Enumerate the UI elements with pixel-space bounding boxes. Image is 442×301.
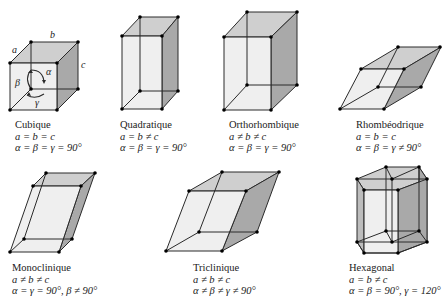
caption-monoclinic: Monoclinique a ≠ b ≠ c α = γ = 90°, β ≠ … bbox=[12, 262, 97, 297]
angles-relation: α = β = γ = 90° bbox=[15, 142, 82, 154]
system-name: Cubique bbox=[15, 119, 82, 131]
system-name: Orthorhombique bbox=[229, 119, 299, 131]
caption-tetragonal: Quadratique a = b ≠ c α = β = γ = 90° bbox=[120, 119, 187, 154]
orthorhombic-cell bbox=[222, 10, 299, 112]
system-name: Triclinique bbox=[193, 262, 256, 274]
lengths-relation: a ≠ b ≠ c bbox=[12, 274, 97, 286]
rhombohedral-cell bbox=[338, 45, 442, 111]
lengths-relation: a = b = c bbox=[15, 131, 82, 143]
label-c: c bbox=[81, 59, 86, 70]
triclinic-cell bbox=[164, 170, 281, 253]
lengths-relation: a ≠ b ≠ c bbox=[193, 274, 256, 286]
lengths-relation: a ≠ b ≠ c bbox=[229, 131, 299, 143]
lengths-relation: a = b ≠ c bbox=[349, 274, 441, 286]
label-b: b bbox=[50, 29, 55, 40]
system-name: Hexagonal bbox=[349, 262, 441, 274]
caption-hexagonal: Hexagonal a = b ≠ c α = β = 90°, γ = 120… bbox=[349, 262, 441, 297]
hexagonal-cell bbox=[355, 165, 429, 255]
label-beta: β bbox=[14, 77, 20, 88]
angles-relation: α = β = γ ≠ 90° bbox=[356, 142, 424, 154]
angles-relation: α = β = γ = 90° bbox=[229, 142, 299, 154]
angles-relation: α = β = 90°, γ = 120° bbox=[349, 285, 441, 297]
lengths-relation: a = b = c bbox=[356, 131, 424, 143]
caption-triclinic: Triclinique a ≠ b ≠ c α ≠ β ≠ γ ≠ 90° bbox=[193, 262, 256, 297]
angles-relation: α = β = γ = 90° bbox=[120, 142, 187, 154]
system-name: Monoclinique bbox=[12, 262, 97, 274]
cubic-cell bbox=[8, 40, 80, 112]
caption-orthorhombic: Orthorhombique a ≠ b ≠ c α = β = γ = 90° bbox=[229, 119, 299, 154]
label-alpha: α bbox=[46, 66, 52, 77]
system-name: Quadratique bbox=[120, 119, 187, 131]
angles-relation: α = γ = 90°, β ≠ 90° bbox=[12, 285, 97, 297]
system-name: Rhombéodrique bbox=[356, 119, 424, 131]
caption-cubic: Cubique a = b = c α = β = γ = 90° bbox=[15, 119, 82, 154]
caption-rhombohedral: Rhombéodrique a = b = c α = β = γ ≠ 90° bbox=[356, 119, 424, 154]
tetragonal-cell bbox=[120, 15, 180, 111]
angles-relation: α ≠ β ≠ γ ≠ 90° bbox=[193, 285, 256, 297]
monoclinic-cell bbox=[8, 171, 97, 254]
label-a: a bbox=[12, 44, 17, 55]
lengths-relation: a = b ≠ c bbox=[120, 131, 187, 143]
